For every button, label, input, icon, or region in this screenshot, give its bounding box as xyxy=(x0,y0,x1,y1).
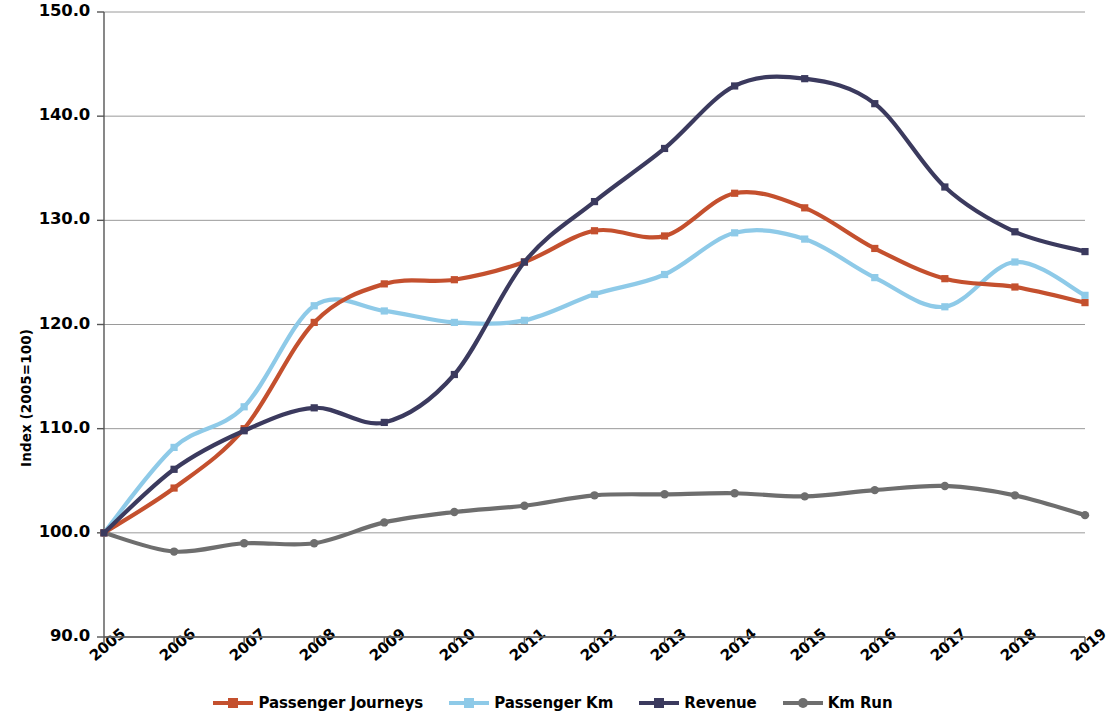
data-point-marker xyxy=(521,317,528,324)
data-point-marker xyxy=(941,482,949,490)
data-point-marker xyxy=(1011,491,1019,499)
data-point-marker xyxy=(1081,511,1089,519)
data-point-marker xyxy=(1081,292,1088,299)
data-point-marker xyxy=(941,303,948,310)
data-point-marker xyxy=(801,235,808,242)
plot-area xyxy=(0,0,1106,721)
data-point-marker xyxy=(521,258,528,265)
data-point-marker xyxy=(450,508,458,516)
legend-label: Passenger Journeys xyxy=(258,694,423,712)
data-point-marker xyxy=(100,529,107,536)
data-point-marker xyxy=(381,419,388,426)
data-point-marker xyxy=(941,275,948,282)
legend-swatch-icon xyxy=(783,693,823,713)
series-line xyxy=(104,77,1085,533)
data-point-marker xyxy=(1011,258,1018,265)
data-point-marker xyxy=(731,229,738,236)
data-point-marker xyxy=(451,319,458,326)
legend-item[interactable]: Passenger Km xyxy=(449,693,613,713)
series-line xyxy=(104,192,1085,533)
data-point-marker xyxy=(871,245,878,252)
data-point-marker xyxy=(170,444,177,451)
data-point-marker xyxy=(590,491,598,499)
data-point-marker xyxy=(1081,299,1088,306)
data-point-marker xyxy=(871,274,878,281)
data-point-marker xyxy=(240,539,248,547)
legend-label: Passenger Km xyxy=(494,694,613,712)
data-point-marker xyxy=(311,302,318,309)
legend-label: Km Run xyxy=(828,694,893,712)
data-point-marker xyxy=(591,198,598,205)
series-km-run xyxy=(100,482,1089,556)
data-point-marker xyxy=(1011,283,1018,290)
data-point-marker xyxy=(661,271,668,278)
data-point-marker xyxy=(730,489,738,497)
data-point-marker xyxy=(871,486,879,494)
data-point-marker xyxy=(591,291,598,298)
data-point-marker xyxy=(241,427,248,434)
data-point-marker xyxy=(801,492,809,500)
legend-swatch-icon xyxy=(639,693,679,713)
data-point-marker xyxy=(731,190,738,197)
data-point-marker xyxy=(801,204,808,211)
data-point-marker xyxy=(941,183,948,190)
data-point-marker xyxy=(451,276,458,283)
data-point-marker xyxy=(660,490,668,498)
data-point-marker xyxy=(311,404,318,411)
data-point-marker xyxy=(311,319,318,326)
line-chart: Index (2005=100) 150.0140.0130.0120.0110… xyxy=(0,0,1106,721)
legend-item[interactable]: Passenger Journeys xyxy=(213,693,423,713)
data-point-marker xyxy=(170,547,178,555)
data-point-marker xyxy=(310,539,318,547)
legend-swatch-icon xyxy=(213,693,253,713)
legend-item[interactable]: Revenue xyxy=(639,693,757,713)
data-point-marker xyxy=(871,100,878,107)
data-point-marker xyxy=(520,502,528,510)
data-point-marker xyxy=(380,518,388,526)
data-point-marker xyxy=(661,145,668,152)
data-point-marker xyxy=(661,232,668,239)
data-point-marker xyxy=(1081,248,1088,255)
chart-legend: Passenger JourneysPassenger KmRevenueKm … xyxy=(0,693,1106,713)
data-point-marker xyxy=(381,307,388,314)
data-point-marker xyxy=(241,403,248,410)
legend-label: Revenue xyxy=(684,694,757,712)
data-point-marker xyxy=(451,371,458,378)
data-point-marker xyxy=(1011,228,1018,235)
legend-item[interactable]: Km Run xyxy=(783,693,893,713)
data-point-marker xyxy=(381,280,388,287)
data-point-marker xyxy=(170,484,177,491)
data-point-marker xyxy=(170,466,177,473)
legend-swatch-icon xyxy=(449,693,489,713)
data-point-marker xyxy=(591,227,598,234)
data-point-marker xyxy=(731,82,738,89)
data-point-marker xyxy=(801,75,808,82)
